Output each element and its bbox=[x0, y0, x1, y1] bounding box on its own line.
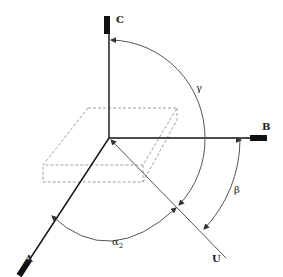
label-b: B bbox=[262, 121, 270, 132]
label-alpha2: α2 bbox=[112, 236, 123, 250]
axis-orientation-diagram: C B A U γ β α2 bbox=[0, 0, 283, 277]
axis-c-marker bbox=[104, 16, 110, 34]
dashed-box bbox=[43, 108, 177, 182]
label-gamma: γ bbox=[196, 82, 202, 93]
arc-gamma bbox=[179, 138, 205, 205]
label-u: U bbox=[212, 253, 221, 264]
label-a: A bbox=[24, 253, 33, 264]
axis-b-marker bbox=[250, 135, 267, 141]
axis-a bbox=[24, 138, 109, 268]
label-c: C bbox=[116, 14, 124, 25]
vector-u bbox=[111, 140, 226, 258]
label-beta: β bbox=[234, 184, 240, 195]
arc-gamma-upper bbox=[111, 40, 205, 138]
axes bbox=[24, 18, 252, 268]
